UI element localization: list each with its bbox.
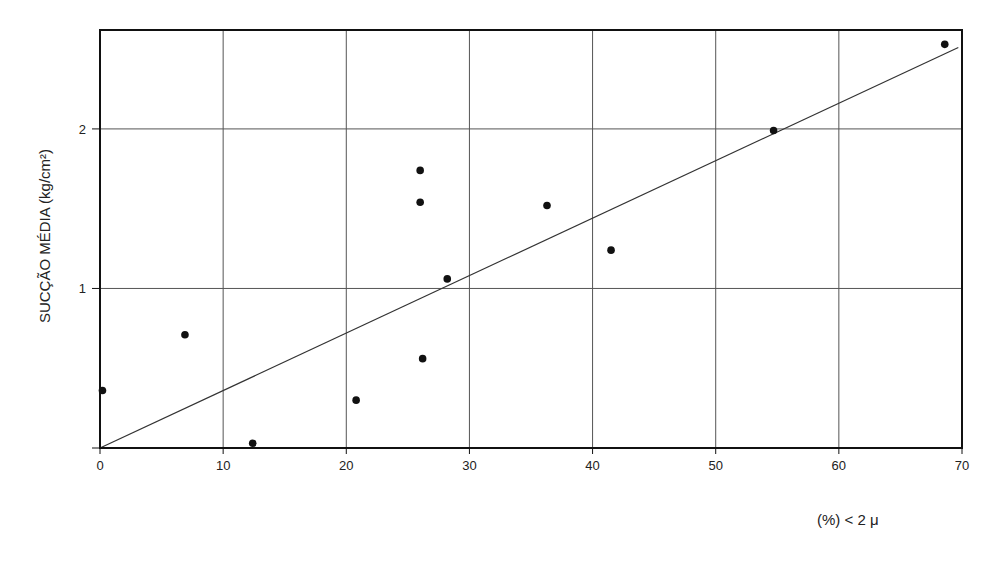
y-tick-label: 1 — [79, 281, 86, 296]
scatter-chart: 010203040506070 12 SUCÇÃO MÉDIA (kg/cm²)… — [0, 0, 998, 564]
data-point — [770, 127, 778, 135]
x-tick-label: 60 — [832, 458, 846, 473]
x-axis-title: (%) < 2 μ — [817, 511, 879, 528]
data-point — [419, 355, 427, 363]
x-tick-label: 40 — [585, 458, 599, 473]
y-tick-label: 2 — [79, 122, 86, 137]
y-axis-ticks: 12 — [79, 122, 100, 448]
x-tick-label: 20 — [339, 458, 353, 473]
data-points — [99, 41, 949, 447]
x-tick-label: 70 — [955, 458, 969, 473]
data-point — [181, 331, 189, 339]
data-point — [443, 275, 451, 283]
x-axis-ticks: 010203040506070 — [96, 448, 969, 473]
x-tick-label: 0 — [96, 458, 103, 473]
grid-lines — [100, 30, 962, 448]
x-tick-label: 30 — [462, 458, 476, 473]
data-point — [941, 41, 949, 49]
data-point — [416, 199, 424, 207]
data-point — [249, 439, 257, 447]
data-point — [416, 167, 424, 175]
regression-line — [100, 48, 958, 448]
data-point — [543, 202, 551, 210]
y-axis-title: SUCÇÃO MÉDIA (kg/cm²) — [36, 149, 53, 323]
plot-frame — [100, 30, 962, 448]
data-point — [607, 246, 615, 254]
x-tick-label: 10 — [216, 458, 230, 473]
data-point — [352, 396, 360, 404]
x-tick-label: 50 — [708, 458, 722, 473]
trend-line — [100, 48, 958, 448]
